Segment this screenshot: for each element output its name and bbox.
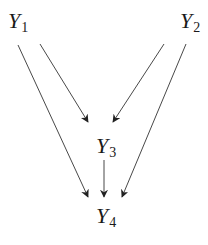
node-y2-subscript: 2 bbox=[193, 20, 200, 35]
node-y1-letter: Y bbox=[8, 8, 20, 33]
node-y1-subscript: 1 bbox=[21, 20, 28, 35]
dag-diagram: Y1 Y2 Y3 Y4 bbox=[0, 0, 208, 245]
edge-y1-to-y4-arrow bbox=[18, 45, 88, 197]
node-y4-subscript: 4 bbox=[109, 215, 116, 230]
node-y2-letter: Y bbox=[180, 8, 192, 33]
node-y2: Y2 bbox=[180, 10, 200, 35]
node-y4: Y4 bbox=[96, 205, 116, 230]
node-y1: Y1 bbox=[8, 10, 28, 35]
node-y3: Y3 bbox=[96, 135, 116, 160]
node-y3-subscript: 3 bbox=[109, 145, 116, 160]
node-y4-letter: Y bbox=[96, 203, 108, 228]
edge-y2-to-y3-arrow bbox=[113, 44, 164, 122]
node-y3-letter: Y bbox=[96, 133, 108, 158]
edge-y2-to-y4-arrow bbox=[122, 44, 186, 197]
edge-y1-to-y3-arrow bbox=[40, 44, 88, 122]
